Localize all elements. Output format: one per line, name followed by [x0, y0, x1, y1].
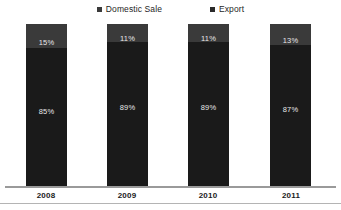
- x-axis-tick-2010: 2010: [178, 190, 238, 201]
- bar-column-2010[interactable]: 11% 89%: [188, 24, 229, 186]
- x-axis-line: [5, 186, 336, 188]
- bar-segment-export-2011[interactable]: 13%: [270, 24, 311, 45]
- bar-column-2011[interactable]: 13% 87%: [270, 24, 311, 186]
- bar-label-domestic-2009: 89%: [120, 103, 136, 112]
- bar-segment-domestic-2009[interactable]: 89%: [107, 42, 148, 186]
- x-axis-tick-2008: 2008: [16, 190, 76, 201]
- bottom-divider: [0, 203, 341, 204]
- bar-column-2009[interactable]: 11% 89%: [107, 24, 148, 186]
- bar-label-export-2011: 13%: [283, 36, 299, 45]
- plot-area: 15% 85% 11% 89% 11% 89% 13%: [0, 0, 341, 210]
- bar-label-export-2008: 15%: [39, 38, 55, 47]
- x-axis-tick-2009: 2009: [97, 190, 157, 201]
- stacked-bar-chart: Domestic Sale Export 15% 85% 11% 89%: [0, 0, 341, 210]
- bar-segment-export-2008[interactable]: 15%: [26, 24, 67, 48]
- x-axis-tick-2011: 2011: [261, 190, 321, 201]
- bar-segment-export-2010[interactable]: 11%: [188, 24, 229, 42]
- bar-segment-domestic-2010[interactable]: 89%: [188, 42, 229, 186]
- bar-segment-domestic-2008[interactable]: 85%: [26, 48, 67, 186]
- bar-segment-domestic-2011[interactable]: 87%: [270, 45, 311, 186]
- bar-column-2008[interactable]: 15% 85%: [26, 24, 67, 186]
- bar-label-domestic-2008: 85%: [39, 107, 55, 116]
- bar-segment-export-2009[interactable]: 11%: [107, 24, 148, 42]
- bar-label-domestic-2010: 89%: [201, 103, 217, 112]
- bar-label-domestic-2011: 87%: [283, 105, 299, 114]
